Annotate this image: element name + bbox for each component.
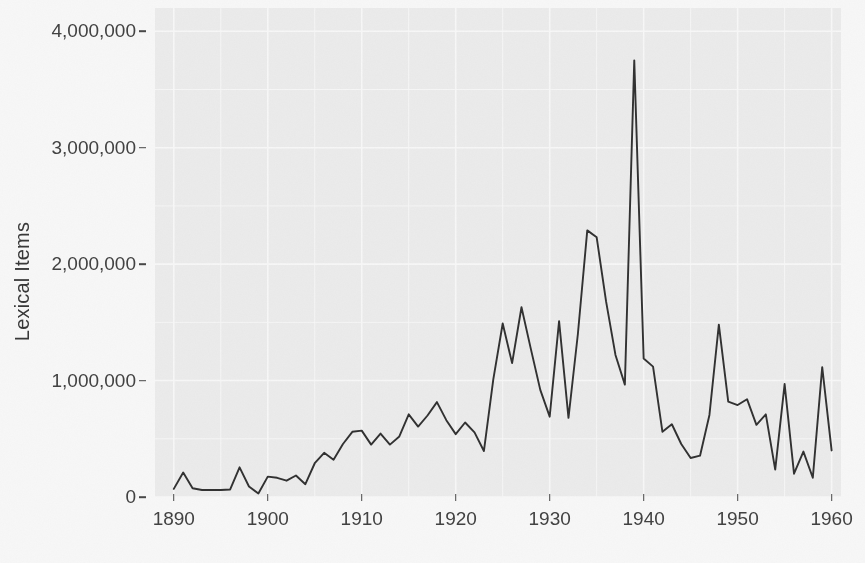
plot-panel: [155, 8, 841, 497]
y-axis-tick-mark: [139, 30, 146, 32]
x-axis-tick-label: 1960: [810, 508, 852, 530]
y-axis-tick-mark: [139, 147, 146, 149]
x-axis-tick-label: 1910: [341, 508, 383, 530]
x-axis-tick-label: 1950: [716, 508, 758, 530]
y-axis-tick-labels: 01,000,0002,000,0003,000,0004,000,000: [40, 0, 146, 563]
y-axis-tick-label: 0: [125, 486, 136, 508]
x-axis-tick-label: 1890: [153, 508, 195, 530]
y-axis-tick-mark: [139, 380, 146, 382]
x-axis-tick-label: 1920: [435, 508, 477, 530]
x-axis-tick-label: 1930: [529, 508, 571, 530]
y-axis-tick-label: 1,000,000: [51, 370, 136, 392]
x-axis-tick-label: 1900: [247, 508, 289, 530]
y-axis-tick-label: 2,000,000: [51, 253, 136, 275]
y-axis-tick-mark: [139, 263, 146, 265]
y-axis-title: Lexical Items: [12, 222, 35, 341]
y-axis-tick-label: 3,000,000: [51, 137, 136, 159]
y-axis-tick-label: 4,000,000: [51, 20, 136, 42]
x-axis-tick-label: 1940: [623, 508, 665, 530]
y-axis-tick-mark: [139, 496, 146, 498]
chart-figure: Lexical Items 01,000,0002,000,0003,000,0…: [0, 0, 865, 563]
plot-svg: [155, 8, 841, 497]
